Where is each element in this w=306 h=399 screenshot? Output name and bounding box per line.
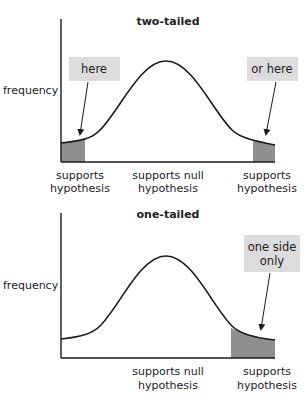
x-label-left-line1: supports (56, 169, 104, 182)
chart-title: one-tailed (137, 208, 200, 221)
x-label-right-line2: hypothesis (237, 182, 297, 195)
x-label-center-line1: supports null (132, 365, 204, 378)
x-label-left-line2: hypothesis (50, 182, 110, 195)
two-tailed-chart: two-tailed frequency here or here suppor… (3, 15, 298, 195)
callout-text-line1: one side (248, 240, 297, 254)
callout-text-here: here (81, 62, 107, 76)
arrow-icon (266, 82, 276, 134)
right-tail-shade (231, 328, 275, 358)
y-axis-label: frequency (3, 279, 59, 292)
arrow-icon (80, 82, 88, 134)
chart-title: two-tailed (136, 15, 199, 28)
x-label-right-line2: hypothesis (237, 379, 297, 392)
hypothesis-test-diagram: two-tailed frequency here or here suppor… (0, 0, 306, 399)
x-label-center-line2: hypothesis (138, 182, 198, 195)
x-label-right-line1: supports (243, 365, 291, 378)
callout-text-line2: only (260, 254, 285, 268)
arrow-icon (261, 273, 270, 329)
x-label-center-line2: hypothesis (138, 379, 198, 392)
callout-text-or-here: or here (251, 62, 292, 76)
x-label-center-line1: supports null (132, 169, 204, 182)
y-axis-label: frequency (3, 84, 59, 97)
x-label-right-line1: supports (243, 169, 291, 182)
distribution-curve (61, 256, 275, 340)
one-tailed-chart: one-tailed frequency one side only suppo… (3, 208, 300, 392)
